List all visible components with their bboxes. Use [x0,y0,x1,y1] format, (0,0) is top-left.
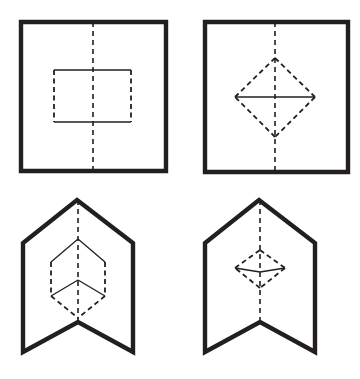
figure-container [0,0,360,379]
geometric-figure-svg [0,0,360,379]
figure-background [0,0,360,379]
